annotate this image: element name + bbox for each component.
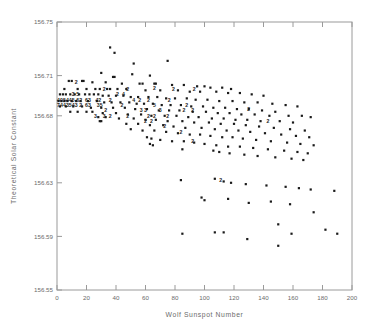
data-point: [156, 96, 158, 98]
overplot-count-label: 2: [126, 86, 129, 92]
data-point: [218, 100, 220, 102]
data-point: [62, 93, 64, 95]
overplot-count-label: 3: [88, 102, 91, 108]
data-point: [220, 123, 222, 125]
data-point: [255, 139, 257, 141]
data-point: [169, 104, 171, 106]
data-point: [198, 116, 200, 118]
data-point: [205, 111, 207, 113]
data-point: [224, 107, 226, 109]
data-point: [172, 125, 174, 127]
data-point: [258, 125, 260, 127]
data-point: [199, 91, 201, 93]
data-point: [257, 101, 259, 103]
y-tick-label: 156.75: [34, 18, 53, 25]
data-point: [113, 76, 115, 78]
data-point: [195, 99, 197, 101]
data-point: [257, 155, 259, 157]
x-axis-title: Wolf Sunspot Number: [166, 311, 244, 319]
data-point: [133, 117, 135, 119]
data-point: [109, 88, 111, 90]
data-point: [97, 93, 99, 95]
y-axis: 156.55156.59156.63156.68156.71156.75: [34, 18, 62, 293]
data-point: [165, 131, 167, 133]
x-tick-label: 40: [113, 294, 120, 301]
data-point: [85, 111, 87, 113]
data-point: [240, 113, 242, 115]
overplot-count-label: 2: [109, 97, 112, 103]
overplot-count-label: 2: [109, 113, 112, 119]
overplot-count-label: 2: [144, 118, 147, 124]
data-point: [283, 150, 285, 152]
overplot-count-label: 2: [147, 97, 150, 103]
data-point: [203, 199, 205, 201]
data-point: [94, 88, 96, 90]
data-point: [175, 115, 177, 117]
data-point: [254, 113, 256, 115]
data-point: [159, 89, 161, 91]
overplot-count-label: 2: [79, 102, 82, 108]
data-point: [215, 144, 217, 146]
overplot-count-label: 2: [153, 85, 156, 91]
data-point: [274, 156, 276, 158]
data-point: [209, 135, 211, 137]
data-point: [228, 152, 230, 154]
data-point: [91, 81, 93, 83]
overplot-count-label: 2: [219, 177, 222, 183]
data-point: [313, 211, 315, 213]
data-point: [88, 93, 90, 95]
data-point: [280, 133, 282, 135]
overplot-count-label: 2: [179, 129, 182, 135]
data-point: [227, 146, 229, 148]
data-point: [167, 60, 169, 62]
data-point: [69, 111, 71, 113]
data-point: [246, 119, 248, 121]
data-point: [308, 136, 310, 138]
overplot-count-label: 2: [75, 79, 78, 85]
data-point: [134, 108, 136, 110]
data-point: [285, 104, 287, 106]
data-point: [177, 89, 179, 91]
data-point: [271, 103, 273, 105]
data-point: [212, 150, 214, 152]
data-point: [302, 159, 304, 161]
data-point: [262, 95, 264, 97]
overplot-count-label: 2: [185, 102, 188, 108]
data-point: [299, 143, 301, 145]
data-point: [285, 186, 287, 188]
data-point: [82, 80, 84, 82]
data-point: [168, 109, 170, 111]
data-point: [141, 83, 143, 85]
data-point: [150, 137, 152, 139]
overplot-count-label: 4: [122, 91, 125, 97]
overplot-count-label: 2: [150, 118, 153, 124]
x-tick-label: 100: [199, 294, 210, 301]
x-axis: 020406080100120140160180200: [55, 22, 357, 301]
data-point: [71, 80, 73, 82]
y-axis-title: Theoretical Solar Constant: [10, 108, 17, 204]
data-point: [99, 88, 101, 90]
data-point: [100, 72, 102, 74]
chart-canvas: 020406080100120140160180200156.55156.591…: [0, 0, 374, 335]
data-point: [181, 148, 183, 150]
overplot-count-label: 2: [193, 86, 196, 92]
data-point: [237, 129, 239, 131]
overplot-count-label: 2: [182, 107, 185, 113]
data-point: [218, 151, 220, 153]
data-points: [57, 46, 338, 247]
data-point: [180, 104, 182, 106]
data-point: [149, 143, 151, 145]
data-point: [231, 100, 233, 102]
data-point: [227, 198, 229, 200]
data-point: [103, 101, 105, 103]
data-point: [152, 144, 154, 146]
data-point: [189, 91, 191, 93]
data-point: [313, 144, 315, 146]
data-point: [231, 136, 233, 138]
data-point: [270, 140, 272, 142]
data-point: [292, 121, 294, 123]
data-point: [239, 92, 241, 94]
x-tick-label: 200: [347, 294, 358, 301]
data-point: [189, 133, 191, 135]
data-point: [133, 62, 135, 64]
